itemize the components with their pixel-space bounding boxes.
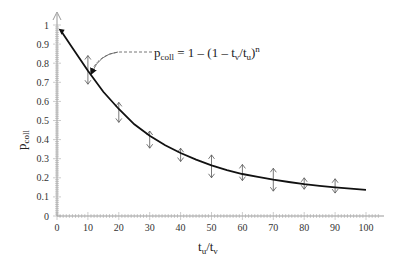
- y-tick-labels: 00.10.20.30.40.50.60.70.80.91: [37, 20, 50, 222]
- y-tick-label: 0.3: [37, 153, 50, 164]
- y-tick-label: 0.1: [37, 191, 50, 202]
- annotation-leader-line: [92, 52, 152, 70]
- x-tick-label: 70: [268, 222, 278, 233]
- equation-annotation: pcoll = 1 – (1 – tv/tu)n: [92, 44, 260, 72]
- error-bar: [332, 179, 338, 193]
- y-axis-label: pcoll: [14, 130, 31, 150]
- y-tick-label: 0.7: [37, 77, 50, 88]
- x-tick-label: 0: [55, 222, 60, 233]
- x-tick-label: 10: [83, 222, 93, 233]
- x-tick-label: 90: [330, 222, 340, 233]
- x-axis-label: tu/tv: [198, 239, 218, 256]
- x-tick-labels: 0102030405060708090100: [55, 222, 374, 233]
- equation-text: pcoll = 1 – (1 – tv/tu)n: [154, 44, 260, 62]
- x-tick-label: 30: [145, 222, 155, 233]
- y-tick-label: 0.6: [37, 96, 50, 107]
- x-tick-label: 50: [207, 222, 217, 233]
- error-bar: [239, 164, 245, 180]
- y-tick-label: 0.2: [37, 172, 50, 183]
- x-tick-label: 80: [299, 222, 309, 233]
- x-tick-label: 100: [359, 222, 374, 233]
- x-tick-label: 40: [176, 222, 186, 233]
- y-tick-label: 1: [44, 20, 49, 31]
- y-tick-label: 0.9: [37, 39, 50, 50]
- y-tick-label: 0.5: [37, 115, 50, 126]
- y-tick-label: 0.8: [37, 58, 50, 69]
- annotation-leader-curve: [92, 52, 118, 72]
- x-tick-label: 20: [114, 222, 124, 233]
- y-tick-label: 0: [44, 211, 49, 222]
- error-bars: [85, 56, 338, 194]
- y-minor-ticks: [53, 25, 61, 216]
- collision-probability-chart: 00.10.20.30.40.50.60.70.80.91 0102030405…: [0, 0, 397, 267]
- x-tick-label: 60: [237, 222, 247, 233]
- y-tick-label: 0.4: [37, 134, 50, 145]
